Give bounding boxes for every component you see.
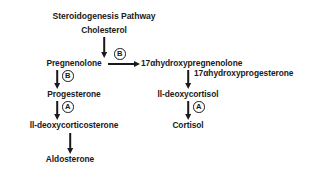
node-aldosterone: Aldosterone: [46, 154, 94, 164]
node-deoxycorticosterone: ll-deoxycorticosterone: [30, 120, 119, 130]
node-deoxycortisol: ll-deoxycortisol: [157, 89, 218, 99]
diagram-title: Steroidogenesis Pathway: [53, 11, 156, 21]
steroidogenesis-pathway-diagram: Steroidogenesis Pathway Cholesterol Preg…: [0, 0, 324, 182]
arrow-pregnenolone-to-hydroxypregnenolone: [108, 63, 134, 65]
enzyme-badge-b-horizontal: B: [114, 48, 126, 60]
node-cholesterol: Cholesterol: [81, 25, 127, 35]
node-hydroxypregnenolone: 17αhydroxypregnenolone: [141, 58, 242, 68]
arrow-pregnenolone-to-progesterone: [56, 70, 58, 83]
enzyme-badge-a-left: A: [62, 101, 74, 113]
arrow-cholesterol-to-pregnenolone: [103, 37, 105, 52]
arrow-deoxycorticosterone-to-aldosterone: [69, 133, 71, 148]
arrow-deoxycortisol-to-cortisol: [187, 101, 189, 114]
enzyme-badge-b-vertical: B: [62, 70, 74, 82]
enzyme-badge-a-right: A: [193, 101, 205, 113]
arrow-hydroxypregnenolone-to-deoxycortisol: [187, 70, 189, 83]
edge-label-hydroxyprogesterone: 17αhydroxyprogesterone: [194, 68, 293, 78]
node-cortisol: Cortisol: [172, 120, 203, 130]
node-progesterone: Progesterone: [47, 89, 100, 99]
node-pregnenolone: Pregnenolone: [46, 58, 101, 68]
arrow-progesterone-to-deoxycorticosterone: [56, 101, 58, 114]
